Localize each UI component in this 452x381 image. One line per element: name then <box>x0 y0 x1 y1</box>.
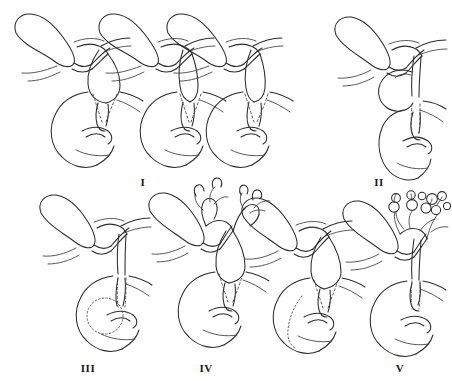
panel-5-drawing-1 <box>343 191 451 357</box>
panel-1-drawing-2 <box>99 14 226 167</box>
panel-2-drawing-1 <box>335 17 447 180</box>
panel-4-drawing-1 <box>149 178 270 347</box>
panel-4-drawing-2 <box>242 198 365 353</box>
panel-1-drawing-3 <box>167 14 293 167</box>
panel-3-drawing-1 <box>40 195 152 351</box>
panel-label-IV: IV <box>199 362 212 374</box>
panel-label-I: I <box>141 176 146 188</box>
choledochal-cyst-classification-figure <box>0 0 452 381</box>
panel-1-drawing-1 <box>15 14 143 167</box>
panel-label-II: II <box>374 176 384 188</box>
panel-label-III: III <box>81 362 95 374</box>
panel-label-V: V <box>396 362 404 374</box>
